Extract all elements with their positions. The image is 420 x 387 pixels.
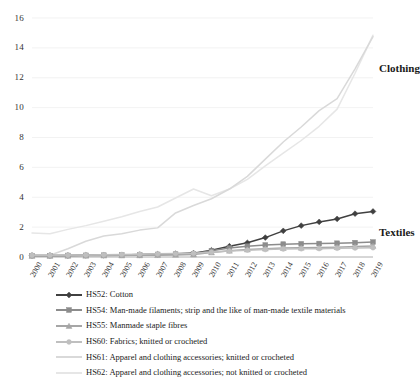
y-axis-tick-label: 0: [2, 253, 24, 262]
series-line: [32, 37, 373, 256]
annotation-clothing: Clothing: [379, 62, 420, 74]
legend-key-swatch: [55, 336, 83, 348]
legend-item-label: HS61: Apparel and clothing accessories; …: [86, 353, 294, 362]
data-point-marker: [67, 308, 72, 313]
data-point-marker: [316, 219, 322, 225]
data-point-marker: [334, 216, 340, 222]
legend-key-swatch: [55, 304, 83, 316]
legend-key-swatch: [55, 289, 83, 301]
y-axis-tick-label: 14: [2, 43, 24, 52]
legend-key-swatch: [55, 367, 83, 379]
data-point-marker: [335, 246, 340, 251]
data-point-marker: [67, 339, 72, 344]
legend-key-swatch: [55, 320, 83, 332]
legend-item-hs54[interactable]: HS54: Man-made filaments; strip and the …: [55, 303, 405, 319]
chart-svg: [0, 0, 414, 272]
data-point-marker: [83, 253, 88, 258]
y-axis-tick-label: 4: [2, 193, 24, 202]
legend-item-hs60[interactable]: HS60: Fabrics; knitted or crocheted: [55, 334, 405, 350]
plot-area: [0, 0, 414, 272]
data-point-marker: [191, 251, 196, 256]
legend-key-swatch: [55, 351, 83, 363]
data-point-marker: [66, 292, 72, 298]
data-point-marker: [352, 211, 358, 217]
y-axis-tick-label: 16: [2, 14, 24, 23]
legend-item-hs61[interactable]: HS61: Apparel and clothing accessories; …: [55, 349, 405, 365]
series-line: [32, 35, 373, 234]
data-point-marker: [281, 247, 286, 252]
series-layer: [29, 35, 376, 258]
data-point-marker: [173, 251, 178, 256]
legend-item-hs55[interactable]: HS55: Manmade staple fibres: [55, 318, 405, 334]
y-axis-tick-label: 8: [2, 133, 24, 142]
data-point-marker: [280, 228, 286, 234]
data-point-marker: [227, 249, 232, 254]
series-hs62: [32, 35, 373, 234]
y-axis-tick-label: 2: [2, 223, 24, 232]
data-point-marker: [101, 252, 106, 257]
legend-item-label: HS52: Cotton: [86, 290, 133, 299]
data-point-marker: [30, 253, 35, 258]
data-point-marker: [155, 251, 160, 256]
data-point-marker: [245, 248, 250, 253]
data-point-marker: [137, 252, 142, 257]
legend-item-label: HS62: Apparel and clothing accessories; …: [86, 368, 307, 377]
series-hs55: [29, 243, 376, 258]
data-point-marker: [65, 253, 70, 258]
data-point-marker: [263, 247, 268, 252]
legend-item-label: HS54: Man-made filaments; strip and the …: [86, 306, 346, 315]
legend-item-label: HS55: Manmade staple fibres: [86, 321, 187, 330]
annotation-textiles: Textiles: [379, 226, 415, 238]
y-axis-tick-label: 6: [2, 163, 24, 172]
series-hs61: [32, 37, 373, 256]
data-point-marker: [119, 252, 124, 257]
data-point-marker: [371, 245, 376, 250]
data-point-marker: [317, 246, 322, 251]
y-axis-tick-label: 10: [2, 103, 24, 112]
legend-item-label: HS60: Fabrics; knitted or crocheted: [86, 337, 207, 346]
data-point-marker: [353, 246, 358, 251]
data-point-marker: [262, 235, 268, 241]
data-point-marker: [370, 209, 376, 215]
legend-item-hs62[interactable]: HS62: Apparel and clothing accessories; …: [55, 365, 405, 381]
series-hs52: [29, 209, 376, 259]
y-axis-tick-label: 12: [2, 73, 24, 82]
data-point-marker: [298, 223, 304, 229]
data-point-marker: [299, 246, 304, 251]
legend-item-hs52[interactable]: HS52: Cotton: [55, 287, 405, 303]
data-point-marker: [209, 250, 214, 255]
legend: HS52: CottonHS54: Man-made filaments; st…: [55, 287, 405, 381]
data-point-marker: [48, 253, 53, 258]
